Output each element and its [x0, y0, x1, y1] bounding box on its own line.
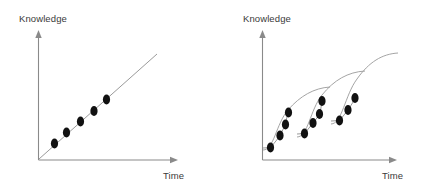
data-point [63, 128, 70, 138]
y-axis-label: Knowledge [19, 13, 67, 24]
x-axis-label: Time [382, 170, 403, 181]
data-point [316, 109, 323, 119]
data-point [336, 116, 343, 126]
data-point [309, 118, 316, 128]
s-curve-chart-svg: Knowledge Time [218, 0, 435, 192]
data-point [51, 139, 58, 149]
data-point-group-cluster-2 [301, 96, 326, 138]
x-axis-arrow-icon [170, 157, 178, 163]
knowledge-growth-figure: Knowledge Time [0, 0, 435, 192]
data-point-group-cluster-1 [267, 108, 292, 153]
chart-panel-s-curve: Knowledge Time [218, 0, 435, 192]
data-point [344, 105, 351, 115]
chart-panel-linear: Knowledge Time [0, 0, 218, 192]
data-point [301, 129, 308, 139]
y-axis-arrow-icon [35, 30, 41, 38]
data-point [285, 108, 292, 118]
x-axis-label: Time [163, 170, 184, 181]
linear-chart-svg: Knowledge Time [0, 0, 218, 192]
data-point [351, 93, 358, 103]
data-point [282, 120, 289, 130]
data-point [276, 131, 283, 141]
y-axis-label: Knowledge [243, 13, 291, 24]
y-axis-group [35, 30, 41, 160]
x-axis-group [263, 157, 398, 163]
data-point [318, 96, 325, 106]
x-axis-arrow-icon [389, 157, 397, 163]
x-axis-group [39, 157, 179, 163]
data-point [90, 106, 97, 116]
s-curve-3 [331, 53, 398, 124]
data-point [103, 95, 110, 105]
data-point [77, 117, 84, 127]
data-point [267, 143, 274, 153]
y-axis-arrow-icon [259, 30, 265, 38]
s-curve-2 [297, 71, 365, 137]
y-axis-group [259, 30, 265, 160]
